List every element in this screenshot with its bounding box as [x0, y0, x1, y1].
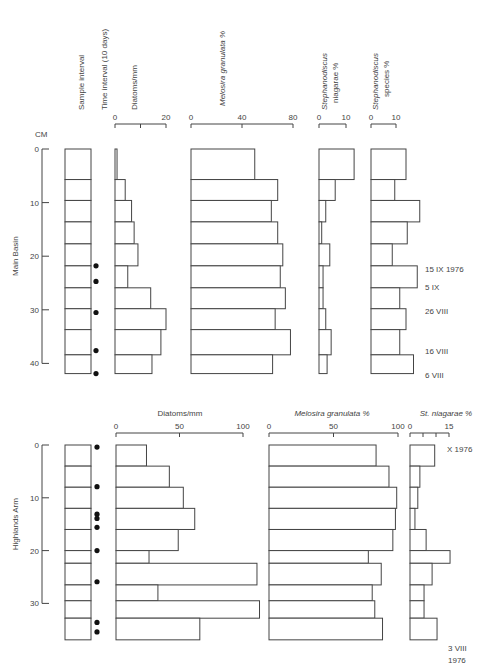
data-bar	[269, 529, 393, 550]
time-interval-dot	[94, 525, 99, 530]
data-bar	[269, 551, 368, 564]
sample-interval-box	[65, 551, 91, 564]
time-interval-dot	[94, 548, 99, 553]
data-bar	[269, 618, 383, 640]
data-bar	[269, 585, 372, 601]
value-tick-label: 100	[391, 422, 405, 431]
data-bar	[319, 180, 335, 201]
data-bar	[410, 508, 415, 529]
sample-interval-box	[65, 563, 91, 585]
date-label: 6 VIII	[425, 371, 444, 380]
data-bar	[191, 309, 275, 330]
header-time-interval: Time interval (10 days)	[100, 29, 109, 110]
value-tick-label: 0	[113, 113, 118, 122]
sample-interval-box	[65, 445, 91, 466]
data-bar	[410, 601, 424, 618]
value-tick-label: 0	[408, 422, 413, 431]
data-bar	[319, 355, 327, 374]
data-bar	[371, 222, 407, 244]
data-bar	[410, 529, 426, 550]
data-bar	[115, 266, 128, 288]
sample-interval-box	[65, 487, 91, 508]
date-label: 1976	[448, 656, 466, 665]
value-tick-label: 15	[445, 422, 454, 431]
date-label: 15 IX 1976	[425, 265, 464, 274]
data-bar	[116, 551, 149, 564]
data-bar	[410, 563, 432, 585]
header-diatoms-lower: Diatoms/mm	[158, 409, 203, 418]
date-label: 5 IX	[425, 283, 440, 292]
value-tick-label: 10	[342, 113, 351, 122]
value-tick-label: 0	[267, 422, 272, 431]
value-tick-label: 0	[317, 113, 322, 122]
data-bar	[371, 149, 406, 180]
time-interval-dot	[93, 371, 98, 376]
data-bar	[116, 529, 178, 550]
sample-interval-box	[65, 309, 91, 330]
data-bar	[116, 508, 195, 529]
data-bar	[115, 222, 134, 244]
data-bar	[410, 466, 420, 487]
sample-interval-box	[65, 355, 91, 374]
data-bar	[269, 445, 376, 466]
data-bar	[410, 618, 437, 640]
header-st-species: Stephanodiscus	[371, 53, 380, 110]
data-bar	[410, 551, 450, 564]
data-bar	[319, 309, 326, 330]
data-bar	[371, 288, 400, 309]
sample-interval-box	[65, 149, 91, 180]
data-bar	[116, 585, 158, 601]
value-tick-label: 0	[114, 422, 119, 431]
sample-interval-box	[65, 585, 91, 601]
data-bar	[191, 266, 280, 288]
value-tick-label: 100	[236, 422, 250, 431]
data-bar	[115, 244, 138, 266]
depth-unit-label: CM	[35, 130, 48, 139]
panel-label: Main Basin	[11, 236, 20, 276]
data-bar	[410, 445, 435, 466]
data-bar	[319, 266, 323, 288]
time-interval-dot	[93, 310, 98, 315]
header-melosira: Melosira granulata %	[218, 31, 227, 106]
sample-interval-box	[65, 601, 91, 618]
sample-interval-box	[65, 200, 91, 221]
time-interval-dot	[94, 484, 99, 489]
data-bar	[269, 563, 381, 585]
data-bar	[191, 180, 278, 201]
time-interval-dot	[94, 629, 99, 634]
data-bar	[191, 244, 283, 266]
data-bar	[191, 149, 255, 180]
data-bar	[115, 355, 152, 374]
sample-interval-box	[65, 508, 91, 529]
data-bar	[371, 266, 417, 288]
value-tick-label: 80	[289, 113, 298, 122]
header-st-niagarae-2: niagarae %	[331, 63, 340, 103]
time-interval-dot	[93, 263, 98, 268]
date-label: X 1976	[447, 445, 473, 454]
data-bar	[269, 487, 397, 508]
value-tick-label: 0	[369, 113, 374, 122]
time-interval-dot	[93, 279, 98, 284]
data-bar	[371, 309, 406, 330]
depth-tick: 0	[35, 145, 40, 154]
sample-interval-box	[65, 180, 91, 201]
time-interval-dot	[94, 620, 99, 625]
sample-interval-box	[65, 266, 91, 288]
data-bar	[191, 200, 271, 221]
data-bar	[371, 330, 400, 355]
data-bar	[410, 585, 424, 601]
data-bar	[319, 244, 330, 266]
depth-tick: 0	[35, 441, 40, 450]
depth-tick: 30	[30, 599, 39, 608]
data-bar	[116, 445, 146, 466]
data-bar	[319, 149, 354, 180]
data-bar	[269, 508, 395, 529]
data-bar	[319, 330, 331, 355]
data-bar	[115, 180, 125, 201]
data-bar	[269, 601, 375, 618]
data-bar	[319, 288, 323, 309]
value-tick-label: 50	[329, 422, 338, 431]
value-tick-label: 20	[162, 113, 171, 122]
time-interval-dot	[94, 579, 99, 584]
data-bar	[371, 200, 420, 221]
